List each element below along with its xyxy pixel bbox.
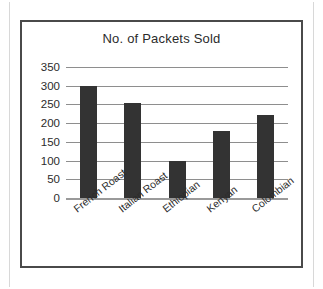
y-axis-tick-label: 300 [41, 80, 60, 92]
gridline [66, 67, 288, 68]
gridline [66, 142, 288, 143]
chart-title: No. of Packets Sold [22, 31, 301, 46]
y-axis-tick-label: 100 [41, 155, 60, 167]
y-axis-tick-label: 150 [41, 136, 60, 148]
y-axis-tick-label: 0 [54, 192, 60, 204]
gridline [66, 86, 288, 87]
bar [124, 103, 141, 198]
page-edge-rule-left [9, 2, 10, 287]
page-edge-rule-right [313, 2, 314, 287]
y-axis-tick-label: 50 [47, 173, 60, 185]
y-axis-tick-label: 250 [41, 98, 60, 110]
bar [80, 86, 97, 198]
y-axis-tick-label: 350 [41, 61, 60, 73]
y-axis-tick-label: 200 [41, 117, 60, 129]
gridline [66, 123, 288, 124]
chart-frame: No. of Packets Sold 05010015020025030035… [20, 20, 303, 268]
plot-area: 050100150200250300350 French RoastItalia… [66, 67, 288, 198]
gridline [66, 104, 288, 105]
